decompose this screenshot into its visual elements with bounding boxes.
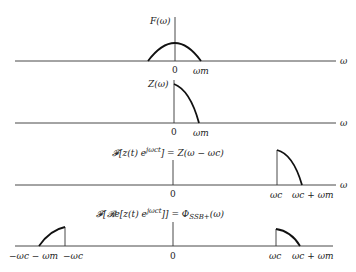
- spectrum-curve: [148, 43, 201, 61]
- tick-zero: 0: [171, 127, 177, 137]
- tick-zero: 0: [172, 65, 178, 75]
- negative-spectrum-curve: [39, 227, 65, 246]
- tick-zero: 0: [170, 189, 176, 199]
- panel-title: Z(ω): [147, 79, 169, 89]
- tick-wc: ωc: [270, 190, 282, 200]
- panel-z-spectrum: Z(ω) ω 0 ωm: [15, 79, 348, 138]
- positive-spectrum-curve: [276, 229, 300, 246]
- tick-neg-wc: −ωc: [63, 251, 83, 261]
- panel-title: 𝓕[z(t) ejωct] = Z(ω − ωc): [112, 146, 224, 158]
- panel-f-spectrum: F(ω) ω 0 ωm: [15, 16, 348, 76]
- tick-wm: ωm: [193, 128, 209, 138]
- spectrum-curve: [174, 84, 199, 123]
- spectrum-curve: [277, 150, 302, 185]
- panel-title: F(ω): [149, 16, 171, 26]
- tick-wc-plus-wm: ωc + ωm: [292, 251, 334, 261]
- tick-zero: 0: [170, 251, 176, 261]
- panel-ssb-spectrum: 𝓕[𝓡e[z(t) ejωct]] = ΦSSB+(ω) −ωc − ωm −ω…: [9, 207, 334, 261]
- tick-neg-wc-minus-wm: −ωc − ωm: [9, 251, 58, 261]
- tick-wm: ωm: [193, 66, 209, 76]
- panel-shifted-spectrum: 𝓕[z(t) ejωct] = Z(ω − ωc) ω 0 ωc ωc + ωm: [15, 146, 348, 200]
- tick-wc: ωc: [269, 251, 281, 261]
- ssb-spectrum-diagram: F(ω) ω 0 ωm Z(ω) ω 0 ωm 𝓕[z(t) ejωct] = …: [0, 0, 356, 272]
- tick-wc-plus-wm: ωc + ωm: [292, 190, 334, 200]
- axis-symbol: ω: [340, 180, 348, 190]
- axis-symbol: ω: [340, 118, 348, 128]
- axis-symbol: ω: [340, 56, 348, 66]
- panel-title: 𝓕[𝓡e[z(t) ejωct]] = ΦSSB+(ω): [96, 207, 225, 221]
